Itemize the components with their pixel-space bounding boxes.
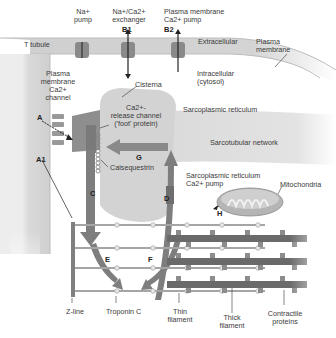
mitochondria-icon	[217, 188, 283, 216]
troponin-c-label: Troponin C	[106, 308, 141, 316]
release-channel-label: Ca2+- release channel ('foot' protein)	[106, 104, 166, 128]
thick-filament-label: Thick filament	[214, 314, 250, 330]
z-line-label: Z-line	[66, 308, 84, 316]
pathway-f-label: F	[148, 256, 153, 264]
pathway-c-label: C	[90, 190, 95, 198]
pm-pump-id: B2	[164, 26, 174, 34]
thin-filament-label: Thin filament	[162, 308, 198, 324]
pm-ca-pump-icon	[171, 29, 185, 72]
sr-label: Sarcoplasmic reticulum	[183, 106, 257, 114]
pm-pump-label: Plasma membrane Ca2+ pump	[164, 8, 224, 24]
na-ca-exchanger-icon	[121, 29, 135, 79]
pathway-e-label: E	[105, 256, 110, 264]
pm-ca-channel-icon	[52, 114, 64, 145]
extracellular-label: Extracellular	[198, 38, 238, 46]
pathway-a1-label: A1	[36, 156, 46, 164]
na-pump-icon	[75, 42, 89, 58]
pm-ca-channel-label: Plasma membrane Ca2+ channel	[36, 70, 80, 102]
pathway-g-label: G	[136, 154, 142, 162]
t-tubule-label: T tubule	[24, 41, 50, 49]
exchanger-id: B1	[122, 26, 132, 34]
mitochondria-label: Mitochondria	[280, 181, 321, 189]
pathway-h-label: H	[217, 210, 222, 218]
pathway-a-label: A	[37, 114, 42, 122]
exchanger-label: Na+/Ca2+ exchanger	[105, 8, 153, 24]
thick-filaments	[167, 228, 336, 298]
na-pump-label: Na+ pump	[68, 8, 98, 24]
calsequestrin-label: Calsequestrin	[110, 164, 154, 172]
cisterna-label: Cisterna	[135, 81, 162, 89]
contractile-proteins-label: Contractile proteins	[262, 310, 308, 326]
intracellular-label: Intracellular (cytosol)	[197, 70, 234, 86]
diagram-canvas: Na+ pump Na+/Ca2+ exchanger B1 Plasma me…	[0, 0, 336, 338]
z-line	[71, 222, 75, 297]
plasma-membrane-label: Plasma membrane	[256, 38, 290, 54]
pathway-d-label: D	[164, 195, 169, 203]
sr-pump-label: Sarcoplasmic reticulum Ca2+ pump	[186, 172, 260, 188]
sarcotubular-network-label: Sarcotubular network	[210, 139, 278, 147]
